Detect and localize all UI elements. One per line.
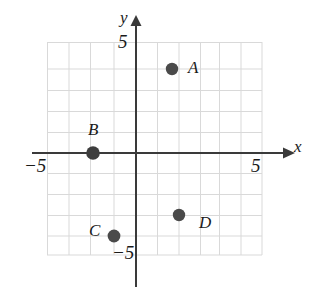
- point-d-marker: [173, 209, 185, 221]
- point-a-marker: [166, 63, 178, 75]
- point-b-label: B: [88, 121, 98, 138]
- grid-horizontal-lines: [47, 43, 262, 256]
- point-b-marker: [86, 146, 100, 160]
- grid-vertical-lines: [48, 42, 263, 255]
- x-axis-positive-tick-label: 5: [251, 156, 261, 175]
- point-c-label: C: [89, 222, 100, 239]
- y-axis-positive-tick-label: 5: [118, 32, 128, 51]
- coordinate-plane-graphic: [0, 0, 320, 295]
- x-axis-name-label: x: [294, 138, 302, 155]
- y-axis-name-label: y: [120, 9, 128, 26]
- y-axis-negative-tick-label: −5: [112, 243, 134, 262]
- y-axis-arrowhead: [131, 15, 142, 26]
- x-axis-negative-tick-label: −5: [24, 156, 46, 175]
- coordinate-plane-figure: x y 5 −5 5 −5 A B C D: [0, 0, 320, 295]
- point-c-marker: [108, 230, 121, 243]
- point-d-label: D: [199, 214, 211, 231]
- point-a-label: A: [188, 59, 198, 76]
